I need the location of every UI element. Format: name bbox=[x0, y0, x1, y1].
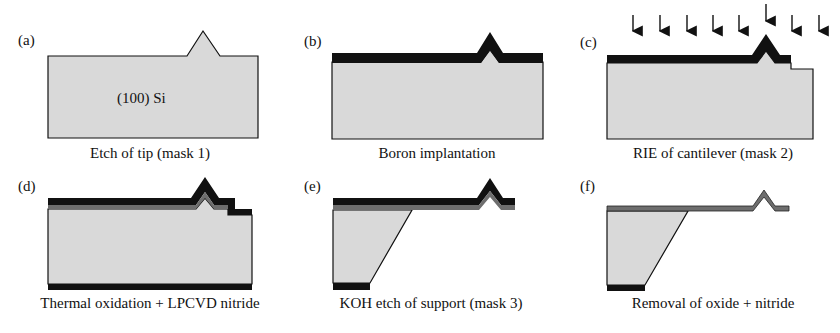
rie-arrows bbox=[633, 4, 819, 31]
silicon-support bbox=[607, 211, 688, 285]
caption-e: KOH etch of support (mask 3) bbox=[340, 295, 523, 312]
caption-d: Thermal oxidation + LPCVD nitride bbox=[40, 295, 260, 311]
panel-d: (d) Thermal oxidation + LPCVD nitride bbox=[18, 177, 260, 311]
panel-label-e: (e) bbox=[304, 178, 321, 195]
panel-c: (c) RIE of cantilever (mask 2) bbox=[580, 4, 819, 162]
panel-e: (e) KOH etch of support (mask 3) bbox=[304, 178, 522, 312]
silicon-substrate bbox=[332, 50, 543, 139]
process-diagram: (a) (100) Si Etch of tip (mask 1) (b) Bo… bbox=[0, 0, 840, 333]
substrate-label: (100) Si bbox=[117, 90, 166, 107]
panel-f: (f) Removal of oxide + nitride bbox=[580, 178, 795, 311]
nitride-layer-top bbox=[333, 178, 515, 205]
panel-label-a: (a) bbox=[18, 32, 35, 49]
boron-layer bbox=[332, 32, 543, 63]
panel-label-b: (b) bbox=[304, 33, 322, 50]
caption-c: RIE of cantilever (mask 2) bbox=[633, 145, 793, 162]
panel-a: (a) (100) Si Etch of tip (mask 1) bbox=[18, 31, 258, 162]
panel-label-c: (c) bbox=[580, 34, 597, 51]
silicon-substrate bbox=[607, 51, 813, 139]
silicon-substrate bbox=[48, 31, 258, 138]
caption-b: Boron implantation bbox=[378, 145, 496, 161]
silicon-substrate bbox=[48, 198, 252, 284]
silicon-support bbox=[333, 210, 412, 283]
nitride-layer-bottom bbox=[48, 284, 252, 290]
nitride-layer-bottom bbox=[607, 285, 645, 291]
panel-b: (b) Boron implantation bbox=[304, 32, 543, 161]
panel-label-d: (d) bbox=[18, 178, 36, 195]
cantilever-layer bbox=[607, 190, 789, 211]
panel-label-f: (f) bbox=[580, 178, 595, 195]
caption-f: Removal of oxide + nitride bbox=[632, 295, 795, 311]
nitride-layer-bottom bbox=[333, 283, 370, 290]
caption-a: Etch of tip (mask 1) bbox=[90, 145, 210, 162]
